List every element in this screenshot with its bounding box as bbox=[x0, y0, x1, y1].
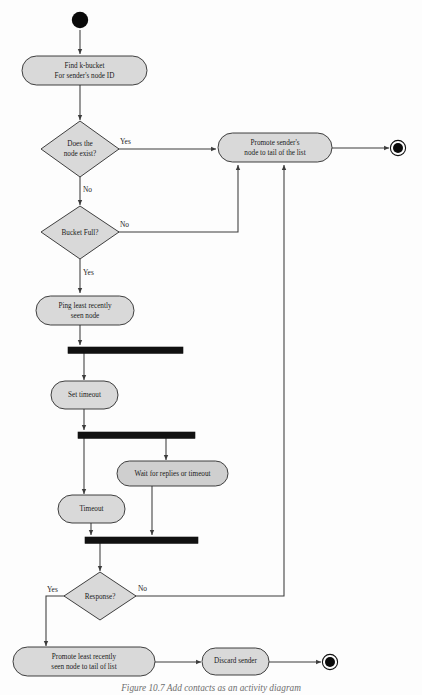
decision-response-label: Response? bbox=[85, 593, 116, 601]
activity-discard-sender-label: Discard sender bbox=[214, 657, 258, 665]
figure-caption: Figure 10.7 Add contacts as an activity … bbox=[120, 683, 301, 693]
guard-response-yes: Yes bbox=[47, 585, 58, 594]
decision-does-node-exist[interactable]: Does the node exist? bbox=[41, 121, 119, 177]
join-bar-1 bbox=[85, 537, 198, 543]
activity-promote-least-recent-line1: Promote least recently bbox=[52, 653, 117, 661]
decision-response[interactable]: Response? bbox=[64, 572, 136, 620]
guard-response-no: No bbox=[138, 584, 147, 593]
activity-discard-sender[interactable]: Discard sender bbox=[202, 648, 269, 675]
activity-ping-least-recent-line2: seen node bbox=[71, 312, 100, 320]
activity-promote-sender-line1: Promote sender's bbox=[250, 139, 299, 147]
activity-promote-least-recent[interactable]: Promote least recently seen node to tail… bbox=[13, 647, 155, 676]
activity-diagram-canvas: Find k-bucket For sender's node ID Does … bbox=[0, 0, 422, 695]
activity-wait-for-replies[interactable]: Wait for replies or timeout bbox=[117, 461, 228, 486]
activity-find-k-bucket-line1: Find k-bucket bbox=[64, 62, 104, 70]
fork-bar-1 bbox=[68, 347, 183, 353]
activity-promote-least-recent-line2: seen node to tail of list bbox=[51, 663, 116, 671]
activity-set-timeout-label: Set timeout bbox=[68, 391, 101, 399]
diagram-page: Find k-bucket For sender's node ID Does … bbox=[0, 0, 422, 695]
final-node-bottom bbox=[322, 654, 337, 669]
decision-bucket-full[interactable]: Bucket Full? bbox=[41, 206, 119, 259]
edge-response-yes-to-promote-least bbox=[46, 596, 65, 646]
decision-does-node-exist-line1: Does the bbox=[67, 140, 92, 148]
edge-response-no-to-promote-sender bbox=[135, 165, 284, 596]
activity-timeout-label: Timeout bbox=[79, 505, 103, 513]
decision-bucket-full-label: Bucket Full? bbox=[62, 229, 99, 237]
activity-find-k-bucket[interactable]: Find k-bucket For sender's node ID bbox=[22, 56, 147, 85]
guard-exist-yes: Yes bbox=[120, 137, 131, 146]
guard-bucket-yes: Yes bbox=[83, 268, 94, 277]
guard-bucket-no: No bbox=[120, 220, 129, 229]
activity-promote-sender[interactable]: Promote sender's node to tail of the lis… bbox=[218, 133, 332, 162]
fork-bar-2 bbox=[78, 432, 195, 438]
activity-set-timeout[interactable]: Set timeout bbox=[51, 381, 118, 409]
decision-does-node-exist-line2: node exist? bbox=[64, 150, 97, 158]
activity-find-k-bucket-line2: For sender's node ID bbox=[55, 72, 115, 80]
edges-layer bbox=[46, 30, 389, 662]
activity-ping-least-recent-line1: Ping least recently bbox=[58, 302, 111, 310]
guard-exist-no: No bbox=[83, 185, 92, 194]
activity-ping-least-recent[interactable]: Ping least recently seen node bbox=[36, 296, 134, 325]
final-node-top bbox=[390, 140, 405, 155]
activity-timeout[interactable]: Timeout bbox=[58, 495, 125, 523]
activity-promote-sender-line2: node to tail of the list bbox=[244, 149, 305, 157]
initial-node bbox=[72, 12, 88, 28]
activity-wait-for-replies-label: Wait for replies or timeout bbox=[134, 470, 210, 478]
edge-bucket-no-to-promote bbox=[118, 165, 238, 232]
